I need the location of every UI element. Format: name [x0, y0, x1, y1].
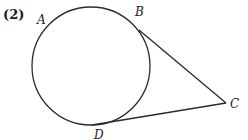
problem-number: (2): [3, 7, 24, 22]
tangent-segment-cd: [92, 103, 226, 125]
point-label-b: B: [134, 5, 144, 19]
point-label-a: A: [36, 13, 46, 27]
geometry-figure: (2) A B C D: [0, 0, 248, 140]
tangent-segment-cb: [139, 30, 226, 103]
circle: [32, 7, 150, 125]
point-label-c: C: [230, 97, 239, 111]
point-label-d: D: [93, 128, 104, 140]
